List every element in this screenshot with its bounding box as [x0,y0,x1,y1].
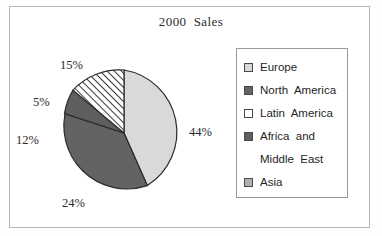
legend-label-europe: Europe [260,62,297,74]
legend-swatch-asia [244,178,253,187]
slice-label-africa-middle-east: 5% [33,95,50,110]
legend-label-africa-middle-east-line2: Middle East [260,154,323,166]
chart-screenshot: 2000 Sales 44% 24% 12% 5% 15% [0,0,382,236]
legend-swatch-africa-middle-east [244,132,253,141]
legend-item-africa-middle-east: Africa and [244,125,347,148]
chart-legend: Europe North America Latin America Afric… [236,48,348,198]
legend-swatch-europe [244,63,253,72]
slice-label-north-america: 24% [62,196,85,211]
legend-swatch-north-america [244,86,253,95]
legend-item-africa-middle-east-line2: Middle East [244,148,347,171]
legend-item-latin-america: Latin America [244,102,347,125]
legend-label-asia: Asia [260,177,282,189]
slice-label-asia: 15% [60,58,83,73]
pie-chart [57,64,193,204]
legend-item-asia: Asia [244,171,347,194]
legend-label-north-america: North America [260,85,336,97]
chart-title: 2000 Sales [0,14,382,30]
pie-svg [57,64,193,204]
legend-item-north-america: North America [244,79,347,102]
slice-label-europe: 44% [189,125,212,140]
legend-label-latin-america: Latin America [260,108,333,120]
legend-label-africa-middle-east: Africa and [260,131,315,143]
legend-swatch-spacer [244,155,253,164]
legend-item-europe: Europe [244,56,347,79]
legend-swatch-latin-america [244,109,253,118]
slice-label-latin-america: 12% [16,133,39,148]
